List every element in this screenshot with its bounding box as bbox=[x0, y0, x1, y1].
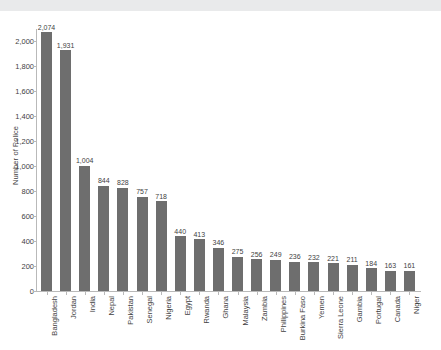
bar[interactable] bbox=[366, 268, 377, 291]
bar-group[interactable]: 211 bbox=[347, 29, 358, 291]
x-axis-category-label: Malaysia bbox=[241, 296, 250, 326]
bar-value-label: 161 bbox=[404, 262, 416, 269]
bar[interactable] bbox=[328, 263, 339, 291]
y-axis-tick-label: 0 bbox=[0, 287, 34, 296]
bar[interactable] bbox=[308, 262, 319, 291]
bar-group[interactable]: 346 bbox=[213, 29, 224, 291]
x-axis-category-label: Senegal bbox=[145, 296, 154, 324]
bar[interactable] bbox=[385, 271, 396, 291]
bar-group[interactable]: 1,931 bbox=[60, 29, 71, 291]
x-axis-tick-mark bbox=[333, 292, 334, 295]
x-axis-tick-mark bbox=[66, 292, 67, 295]
y-axis-tick-label: 1,000 bbox=[0, 162, 34, 171]
bar-group[interactable]: 275 bbox=[232, 29, 243, 291]
bar-value-label: 184 bbox=[365, 260, 377, 267]
x-axis-tick-mark bbox=[180, 292, 181, 295]
bar-group[interactable]: 828 bbox=[117, 29, 128, 291]
x-axis-tick-mark bbox=[409, 292, 410, 295]
bar-group[interactable]: 249 bbox=[270, 29, 281, 291]
bar-value-label: 844 bbox=[98, 177, 110, 184]
x-axis-tick-mark bbox=[238, 292, 239, 295]
bar-value-label: 440 bbox=[174, 228, 186, 235]
bar-value-label: 249 bbox=[270, 251, 282, 258]
x-axis-category-label: Yemen bbox=[317, 296, 326, 319]
x-axis-tick-mark bbox=[123, 292, 124, 295]
x-axis-tick-mark bbox=[257, 292, 258, 295]
bar-group[interactable]: 1,004 bbox=[79, 29, 90, 291]
bar[interactable] bbox=[98, 186, 109, 291]
bar[interactable] bbox=[289, 262, 300, 291]
bar-value-label: 1,931 bbox=[57, 42, 75, 49]
bar[interactable] bbox=[60, 50, 71, 291]
bar-group[interactable]: 221 bbox=[328, 29, 339, 291]
bar[interactable] bbox=[251, 259, 262, 291]
x-axis-category-label: Nigeria bbox=[164, 296, 173, 320]
x-axis-category-label: Sierra Leone bbox=[336, 296, 345, 339]
bar-value-label: 163 bbox=[384, 262, 396, 269]
bar-value-label: 757 bbox=[136, 188, 148, 195]
bar[interactable] bbox=[156, 201, 167, 291]
x-axis-tick-mark bbox=[218, 292, 219, 295]
bar-value-label: 413 bbox=[193, 231, 205, 238]
bar-group[interactable]: 413 bbox=[194, 29, 205, 291]
y-axis-tick-label: 1,200 bbox=[0, 137, 34, 146]
bar[interactable] bbox=[79, 166, 90, 291]
x-axis-category-label: Niger bbox=[412, 296, 421, 314]
x-axis-tick-mark bbox=[161, 292, 162, 295]
bar-group[interactable]: 844 bbox=[98, 29, 109, 291]
y-axis-tick-label: 200 bbox=[0, 262, 34, 271]
bar[interactable] bbox=[117, 188, 128, 291]
bar-value-label: 232 bbox=[308, 254, 320, 261]
x-axis-category-label: Pakistan bbox=[126, 296, 135, 325]
x-axis-tick-mark bbox=[104, 292, 105, 295]
x-axis-category-label: Burkina Faso bbox=[298, 296, 307, 340]
y-axis-tick-label: 2,000 bbox=[0, 37, 34, 46]
x-axis-category-label: Ghana bbox=[221, 296, 230, 319]
bar-chart-figure: Number of Police 02004006008001,0001,200… bbox=[0, 11, 441, 350]
bar-value-label: 221 bbox=[327, 255, 339, 262]
bar-group[interactable]: 718 bbox=[156, 29, 167, 291]
bar[interactable] bbox=[347, 265, 358, 291]
bar-group[interactable]: 184 bbox=[366, 29, 377, 291]
bar-group[interactable]: 757 bbox=[137, 29, 148, 291]
x-axis-category-label: Canada bbox=[393, 296, 402, 322]
x-axis-tick-mark bbox=[371, 292, 372, 295]
bar[interactable] bbox=[404, 271, 415, 291]
x-axis-category-label: Gambia bbox=[355, 296, 364, 322]
bar-value-label: 718 bbox=[155, 193, 167, 200]
bar[interactable] bbox=[232, 257, 243, 291]
bar-group[interactable]: 440 bbox=[175, 29, 186, 291]
y-axis-tick-label: 1,600 bbox=[0, 87, 34, 96]
y-axis-tick-label: 1,400 bbox=[0, 112, 34, 121]
x-axis-category-label: Jordan bbox=[69, 296, 78, 319]
x-axis-category-label: Zambia bbox=[260, 296, 269, 321]
bar[interactable] bbox=[194, 239, 205, 291]
bar[interactable] bbox=[41, 32, 52, 291]
y-axis-tick-label: 400 bbox=[0, 237, 34, 246]
y-axis-tick-label: 1,800 bbox=[0, 62, 34, 71]
x-axis-category-label: Nepal bbox=[107, 296, 116, 316]
bar-value-label: 1,004 bbox=[76, 157, 94, 164]
bar-group[interactable]: 232 bbox=[308, 29, 319, 291]
x-axis-category-label: Rwanda bbox=[202, 296, 211, 324]
x-axis-category-label: Philippines bbox=[279, 296, 288, 332]
bar[interactable] bbox=[270, 260, 281, 291]
bar-group[interactable]: 161 bbox=[404, 29, 415, 291]
bar[interactable] bbox=[213, 248, 224, 291]
bar-value-label: 211 bbox=[347, 256, 358, 263]
bar[interactable] bbox=[175, 236, 186, 291]
bar-group[interactable]: 236 bbox=[289, 29, 300, 291]
x-axis-line bbox=[36, 291, 421, 292]
bar[interactable] bbox=[137, 197, 148, 291]
x-axis-tick-mark bbox=[276, 292, 277, 295]
bar-group[interactable]: 163 bbox=[385, 29, 396, 291]
bar-group[interactable]: 2,074 bbox=[41, 29, 52, 291]
bar-value-label: 346 bbox=[213, 239, 225, 246]
y-axis-tick-label: 800 bbox=[0, 187, 34, 196]
x-axis-category-label: India bbox=[88, 296, 97, 312]
x-axis-tick-mark bbox=[199, 292, 200, 295]
y-axis-tick-label: 600 bbox=[0, 212, 34, 221]
x-axis-tick-mark bbox=[85, 292, 86, 295]
bar-group[interactable]: 256 bbox=[251, 29, 262, 291]
top-grey-band bbox=[0, 0, 441, 11]
